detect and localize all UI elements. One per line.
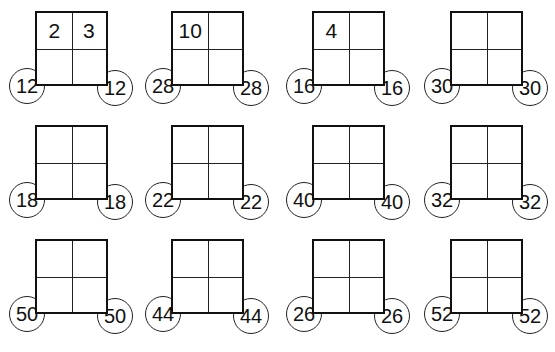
grid-cell[interactable] <box>208 241 243 277</box>
grid-cell[interactable] <box>452 13 487 49</box>
grid-cell[interactable] <box>173 241 208 277</box>
grid-cell[interactable]: 4 <box>314 13 349 49</box>
grid-cell[interactable] <box>37 127 72 163</box>
grid-cell[interactable] <box>72 277 107 313</box>
grid-cell[interactable] <box>37 277 72 313</box>
puzzle-11: 2626 <box>312 239 442 349</box>
puzzle-3: 16164 <box>312 11 442 121</box>
grid-cell[interactable] <box>314 163 349 199</box>
grid-box <box>171 239 244 314</box>
grid-box <box>35 239 108 314</box>
puzzle-7: 4040 <box>312 125 442 235</box>
grid-cell[interactable] <box>349 49 384 85</box>
grid-cell[interactable] <box>72 163 107 199</box>
grid-cell[interactable]: 3 <box>72 13 107 49</box>
grid-cell[interactable] <box>487 49 522 85</box>
grid-box <box>450 11 523 86</box>
grid-box: 23 <box>35 11 108 86</box>
grid-cell[interactable] <box>173 127 208 163</box>
puzzle-6: 2222 <box>171 125 301 235</box>
grid-cell[interactable] <box>452 49 487 85</box>
grid-cell[interactable] <box>173 49 208 85</box>
grid-box <box>450 239 523 314</box>
grid-box <box>450 125 523 200</box>
grid-cell[interactable] <box>72 49 107 85</box>
grid-cell[interactable] <box>452 241 487 277</box>
grid-box: 4 <box>312 11 385 86</box>
grid-cell[interactable] <box>173 163 208 199</box>
puzzle-8: 3232 <box>450 125 555 235</box>
grid-cell[interactable] <box>314 277 349 313</box>
puzzle-2: 282810 <box>171 11 301 121</box>
grid-cell[interactable]: 2 <box>37 13 72 49</box>
grid-box <box>312 239 385 314</box>
grid-cell[interactable] <box>349 241 384 277</box>
puzzle-12: 5252 <box>450 239 555 349</box>
grid-cell[interactable] <box>72 127 107 163</box>
grid-box: 10 <box>171 11 244 86</box>
grid-cell[interactable] <box>487 163 522 199</box>
grid-cell[interactable] <box>314 127 349 163</box>
grid-cell[interactable] <box>208 13 243 49</box>
puzzle-1: 121223 <box>35 11 165 121</box>
puzzle-4: 3030 <box>450 11 555 121</box>
grid-cell[interactable] <box>208 163 243 199</box>
grid-cell[interactable] <box>487 277 522 313</box>
grid-cell[interactable] <box>314 241 349 277</box>
grid-cell[interactable] <box>208 277 243 313</box>
grid-cell[interactable] <box>37 163 72 199</box>
grid-cell[interactable] <box>72 241 107 277</box>
grid-cell[interactable] <box>452 127 487 163</box>
grid-cell[interactable] <box>487 127 522 163</box>
grid-box <box>312 125 385 200</box>
grid-cell[interactable] <box>452 277 487 313</box>
grid-cell[interactable] <box>208 49 243 85</box>
grid-box <box>171 125 244 200</box>
grid-cell[interactable] <box>349 277 384 313</box>
grid-cell[interactable] <box>487 13 522 49</box>
puzzle-10: 4444 <box>171 239 301 349</box>
grid-cell[interactable] <box>452 163 487 199</box>
grid-cell[interactable] <box>349 13 384 49</box>
grid-cell[interactable] <box>349 127 384 163</box>
grid-cell[interactable] <box>487 241 522 277</box>
puzzle-5: 1818 <box>35 125 165 235</box>
grid-cell[interactable] <box>349 163 384 199</box>
grid-cell[interactable] <box>37 49 72 85</box>
grid-cell[interactable] <box>37 241 72 277</box>
grid-cell[interactable] <box>208 127 243 163</box>
grid-cell[interactable] <box>173 277 208 313</box>
grid-cell[interactable]: 10 <box>173 13 208 49</box>
puzzle-9: 5050 <box>35 239 165 349</box>
grid-cell[interactable] <box>314 49 349 85</box>
grid-box <box>35 125 108 200</box>
